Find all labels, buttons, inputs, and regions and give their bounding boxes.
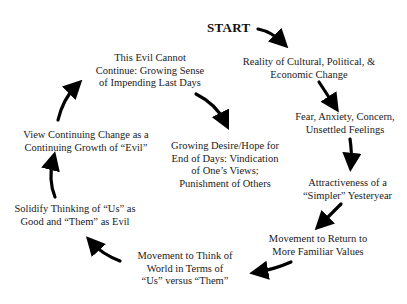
node-line: Unsettled Feelings bbox=[280, 124, 407, 137]
node-line: Growing Desire/Hope for bbox=[165, 140, 285, 153]
node-impending-last-days: This Evil Cannot Continue: Growing Sense… bbox=[90, 52, 210, 90]
arrow-evil-cannot-to-desire bbox=[196, 94, 225, 122]
arrow-fear-to-attractiveness bbox=[350, 139, 351, 163]
node-line: Economic Change bbox=[234, 69, 384, 82]
arrow-reality-to-fear bbox=[319, 82, 334, 105]
node-line: Movement to Think of bbox=[130, 250, 240, 263]
node-end-of-days-desire: Growing Desire/Hope for End of Days: Vin… bbox=[165, 140, 285, 190]
node-line: Good and “Them” as Evil bbox=[4, 216, 146, 229]
node-simpler-yesteryear: Attractiveness of a “Simpler” Yesteryear bbox=[290, 177, 405, 202]
node-line: of One’s Views; bbox=[165, 165, 285, 178]
node-continuing-growth-evil: View Continuing Change as a Continuing G… bbox=[16, 129, 156, 154]
arrow-us-them-to-solidify bbox=[92, 243, 120, 261]
node-line: View Continuing Change as a bbox=[16, 129, 156, 142]
node-line: Reality of Cultural, Political, & bbox=[234, 56, 384, 69]
node-line: Movement to Return to bbox=[258, 233, 378, 246]
node-reality-of-change: Reality of Cultural, Political, & Econom… bbox=[234, 56, 384, 81]
start-label: START bbox=[207, 20, 250, 36]
node-us-versus-them: Movement to Think of World in Terms of “… bbox=[130, 250, 240, 288]
arrow-attractiveness-to-movement-return bbox=[321, 204, 341, 224]
node-line: of Impending Last Days bbox=[90, 77, 210, 90]
node-line: World in Terms of bbox=[130, 263, 240, 276]
arrow-view-change-to-evil-cannot bbox=[58, 86, 76, 120]
node-line: Punishment of Others bbox=[165, 178, 285, 191]
node-fear-anxiety: Fear, Anxiety, Concern, Unsettled Feelin… bbox=[280, 111, 407, 136]
node-return-familiar-values: Movement to Return to More Familiar Valu… bbox=[258, 233, 378, 258]
node-line: Solidify Thinking of “Us” as bbox=[4, 203, 146, 216]
arrow-movement-return-to-us-them bbox=[258, 262, 291, 272]
node-solidify-thinking: Solidify Thinking of “Us” as Good and “T… bbox=[4, 203, 146, 228]
node-line: End of Days: Vindication bbox=[165, 153, 285, 166]
node-line: More Familiar Values bbox=[258, 246, 378, 259]
arrow-solidify-to-view-change bbox=[51, 160, 55, 197]
node-line: “Simpler” Yesteryear bbox=[290, 190, 405, 203]
node-line: Attractiveness of a bbox=[290, 177, 405, 190]
node-line: Continuing Growth of “Evil” bbox=[16, 142, 156, 155]
node-line: This Evil Cannot bbox=[90, 52, 210, 65]
arrow-start-to-reality bbox=[258, 29, 282, 42]
node-line: Fear, Anxiety, Concern, bbox=[280, 111, 407, 124]
node-line: “Us” versus “Them” bbox=[130, 275, 240, 288]
node-line: Continue: Growing Sense bbox=[90, 65, 210, 78]
